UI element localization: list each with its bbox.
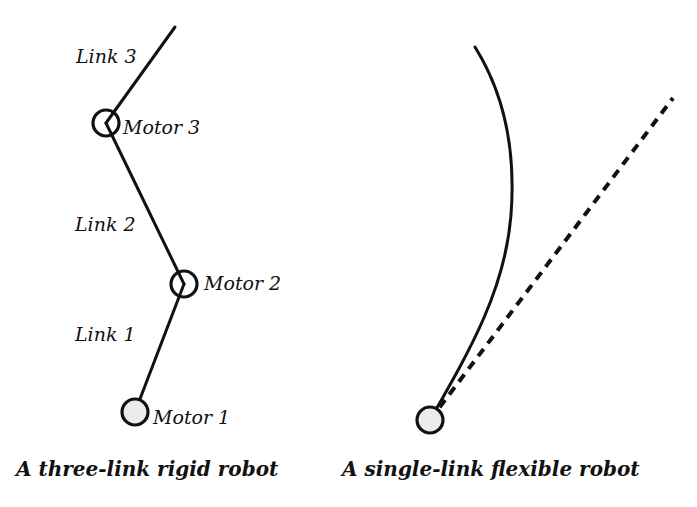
link-1-line: [135, 284, 184, 412]
link-3-label: Link 3: [75, 45, 137, 67]
link-3-line: [106, 27, 175, 123]
flexible-robot: A single-link flexible robot: [340, 47, 673, 481]
robot-diagram: Link 3 Link 2 Link 1 Motor 3 Motor 2 Mot…: [0, 0, 697, 507]
link-2-label: Link 2: [74, 213, 136, 235]
motor-1-label: Motor 1: [152, 406, 230, 428]
link-2-line: [106, 123, 184, 284]
rigid-robot-caption: A three-link rigid robot: [14, 457, 279, 481]
motor-3-label: Motor 3: [122, 116, 200, 138]
flexible-motor-icon: [417, 407, 443, 433]
flexible-robot-caption: A single-link flexible robot: [340, 457, 640, 481]
motor-1-icon: [122, 399, 148, 425]
link-1-label: Link 1: [74, 323, 136, 345]
motor-2-label: Motor 2: [203, 272, 281, 294]
rigid-reference-dashed-line: [430, 98, 673, 420]
rigid-robot: Link 3 Link 2 Link 1 Motor 3 Motor 2 Mot…: [14, 27, 281, 481]
